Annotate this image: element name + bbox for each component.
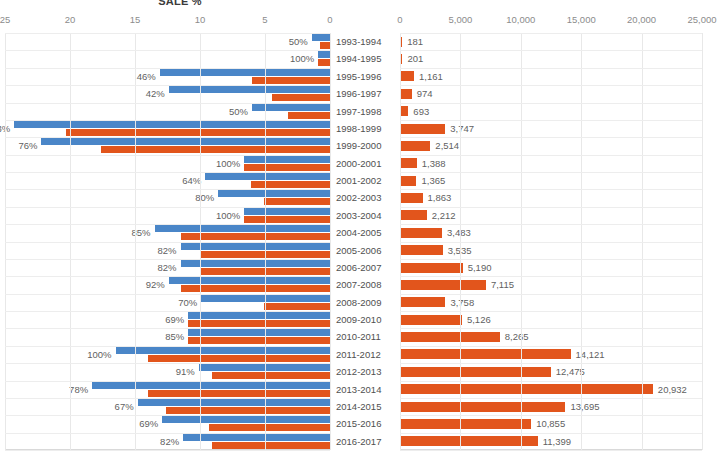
bar-sales[interactable] [400,89,412,99]
bar-blue[interactable] [205,173,330,180]
bar-sales[interactable] [400,315,462,325]
bar-sales[interactable] [400,384,653,394]
bar-blue[interactable] [218,190,330,197]
bar-sales[interactable] [400,228,442,238]
bar-blue[interactable] [244,208,330,215]
bar-orange[interactable] [66,129,330,136]
bar-orange[interactable] [181,233,331,240]
left-axis-tick-15: 15 [130,14,141,25]
bar-blue[interactable] [183,434,330,441]
bar-orange[interactable] [212,442,330,449]
category-label: 1994-1995 [336,50,398,67]
bar-orange[interactable] [209,424,330,431]
bar-orange[interactable] [181,285,331,292]
bar-orange[interactable] [166,407,330,414]
bar-orange[interactable] [320,42,330,49]
bar-sales[interactable] [400,71,414,81]
bar-blue[interactable] [92,382,330,389]
left-panel-row: 69% [5,311,330,328]
category-label: 2006-2007 [336,259,398,276]
row-separator [5,363,330,364]
bar-sales[interactable] [400,332,500,342]
left-axis-tick-5: 5 [262,14,267,25]
category-label: 2007-2008 [336,276,398,293]
row-separator [5,259,330,260]
bar-data-label-value: 5,190 [468,259,492,276]
bar-sales[interactable] [400,367,551,377]
right-panel-row: 10,855 [400,415,702,432]
bar-sales[interactable] [400,245,443,255]
bar-sales[interactable] [400,193,423,203]
bar-orange[interactable] [148,390,330,397]
bar-blue[interactable] [312,34,330,41]
row-separator [5,381,330,382]
bar-data-label-value: 3,483 [447,224,471,241]
bar-data-label-value: 7,115 [491,276,514,293]
bar-blue[interactable] [169,277,330,284]
bar-orange[interactable] [318,59,330,66]
bar-sales[interactable] [400,280,486,290]
bar-blue[interactable] [155,225,331,232]
left-axis-tick-20: 20 [65,14,76,25]
bar-orange[interactable] [264,303,330,310]
bar-sales[interactable] [400,158,417,168]
bar-sales[interactable] [400,436,538,446]
bar-blue[interactable] [162,416,330,423]
bar-data-label-percent: 80% [195,189,214,206]
bar-orange[interactable] [188,337,330,344]
row-separator [400,155,702,156]
bar-blue[interactable] [116,347,331,354]
row-separator [5,311,330,312]
bar-blue[interactable] [169,86,330,93]
right-panel-x-axis: 05,00010,00015,00020,00025,000 [400,14,702,28]
bar-blue[interactable] [160,69,330,76]
bar-blue[interactable] [181,243,331,250]
bar-orange[interactable] [251,181,330,188]
bar-sales[interactable] [400,402,565,412]
bar-sales[interactable] [400,106,408,116]
row-separator [5,224,330,225]
bar-blue[interactable] [138,399,330,406]
bar-blue[interactable] [188,312,330,319]
bar-orange[interactable] [244,164,330,171]
left-panel-row: 67% [5,398,330,415]
bar-orange[interactable] [264,198,330,205]
bar-sales[interactable] [400,124,445,134]
bar-orange[interactable] [288,112,330,119]
category-label: 2001-2002 [336,172,398,189]
right-panel-row: 1,388 [400,155,702,172]
bar-blue[interactable] [181,260,331,267]
bar-orange[interactable] [188,320,330,327]
left-axis-tick-10: 10 [195,14,206,25]
category-label: 2008-2009 [336,294,398,311]
bar-orange[interactable] [272,94,331,101]
row-separator [400,33,702,34]
bar-blue[interactable] [41,138,330,145]
bar-orange[interactable] [148,355,330,362]
bar-sales[interactable] [400,297,445,307]
bar-blue[interactable] [252,104,330,111]
bar-sales[interactable] [400,141,430,151]
bar-orange[interactable] [212,372,330,379]
bar-blue[interactable] [188,329,330,336]
bar-orange[interactable] [252,77,330,84]
bar-data-label-value: 201 [407,50,423,67]
bar-data-label-percent: 91% [176,363,195,380]
bar-blue[interactable] [14,121,330,128]
category-label: 1999-2000 [336,137,398,154]
bar-blue[interactable] [318,51,330,58]
bar-blue[interactable] [244,156,330,163]
bar-sales[interactable] [400,419,531,429]
right-panel-row: 20,932 [400,381,702,398]
bar-orange[interactable] [244,216,330,223]
bar-sales[interactable] [400,349,571,359]
bar-sales[interactable] [400,210,427,220]
right-panel-row: 3,535 [400,242,702,259]
row-separator [400,398,702,399]
bar-data-label-value: 1,365 [421,172,445,189]
bar-sales[interactable] [400,176,416,186]
left-panel-row: 69% [5,415,330,432]
row-separator [5,294,330,295]
bar-sales[interactable] [400,263,463,273]
bar-data-label-percent: 78% [69,381,88,398]
